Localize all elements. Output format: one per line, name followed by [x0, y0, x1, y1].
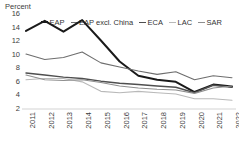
x-axis-tick-labels: 2011201220132014201520162017201820192020…	[22, 110, 236, 148]
series-canvas	[22, 14, 236, 109]
y-axis-tick-label: 6	[16, 78, 20, 86]
percent-line-chart: Percent EAPEAP excl. ChinaECALACSAR 1614…	[0, 0, 239, 148]
x-axis-tick-label: 2019	[179, 112, 187, 129]
plot-area	[22, 14, 236, 109]
y-axis-tick-label: 8	[16, 64, 20, 72]
x-axis-tick-label: 2012	[48, 112, 56, 129]
y-axis-tick-label: 2	[16, 105, 20, 113]
y-axis-tick-label: 10	[12, 51, 20, 59]
x-axis-tick-label: 2015	[104, 112, 112, 129]
x-axis-tick-label: 2020	[198, 112, 206, 129]
x-axis-tick-label: 2021	[216, 112, 224, 129]
y-axis-tick-label: 12	[12, 37, 20, 45]
x-axis-tick-label: 2014	[85, 112, 93, 129]
y-axis-tick-label: 4	[16, 91, 20, 99]
x-axis-tick-label: 2017	[141, 112, 149, 129]
series-line-eap-excl-china	[26, 52, 232, 80]
x-axis-tick-label: 2016	[123, 112, 131, 129]
series-line-eap	[26, 20, 232, 92]
x-axis-tick-label: 2011	[29, 112, 37, 128]
y-axis-tick-label: 14	[12, 24, 20, 32]
y-axis-tick-label: 16	[12, 10, 20, 18]
series-line-eca	[26, 73, 232, 93]
x-axis-tick-label: 2022	[235, 112, 239, 129]
x-axis-tick-label: 2018	[160, 112, 168, 129]
x-axis-tick-label: 2013	[66, 112, 74, 129]
y-axis-tick-labels: 161412108642	[0, 14, 20, 109]
